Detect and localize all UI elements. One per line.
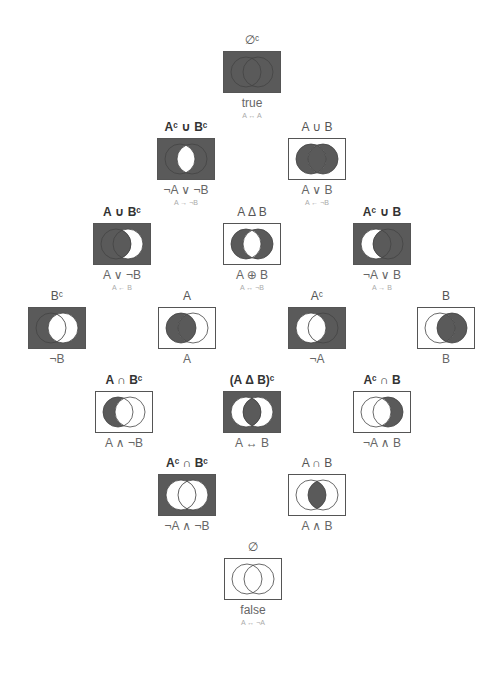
venn-node-or: A ∪ B A ∨ B A ← ¬B bbox=[252, 120, 382, 208]
logic-notation-label: A ⊕ B bbox=[187, 268, 317, 283]
logic-notation-label: A ∨ B bbox=[252, 183, 382, 198]
venn-diagram-icon bbox=[224, 558, 282, 600]
set-notation-label: A ∪ B bbox=[252, 120, 382, 135]
logic-notation-label: ¬B bbox=[0, 352, 122, 367]
set-notation-label: A ∪ Bᶜ bbox=[57, 205, 187, 220]
venn-diagram-icon bbox=[158, 307, 216, 349]
logic-notation-label: A ∧ ¬B bbox=[59, 436, 189, 451]
venn-node-a-or-not-b: A ∪ Bᶜ A ∨ ¬B A ← B bbox=[57, 205, 187, 293]
set-notation-label: Aᶜ ∩ Bᶜ bbox=[122, 456, 252, 471]
venn-node-b: B B bbox=[381, 289, 504, 377]
set-notation-label: Aᶜ ∪ Bᶜ bbox=[121, 120, 251, 135]
venn-diagram-icon bbox=[223, 223, 281, 265]
logic-notation-label: ¬A ∧ ¬B bbox=[122, 519, 252, 534]
equivalence-label: A ↔ ¬A bbox=[188, 618, 318, 628]
set-notation-label: A ∩ Bᶜ bbox=[59, 373, 189, 388]
venn-diagram-icon bbox=[417, 307, 475, 349]
logic-notation-label: ¬A ∧ B bbox=[317, 436, 447, 451]
set-notation-label: ∅ bbox=[188, 540, 318, 555]
logic-notation-label: A ∨ ¬B bbox=[57, 268, 187, 283]
venn-diagram-icon bbox=[223, 391, 281, 433]
set-notation-label: B bbox=[381, 289, 504, 304]
venn-node-not-b: Bᶜ ¬B bbox=[0, 289, 122, 377]
venn-diagram-icon bbox=[93, 223, 151, 265]
logic-notation-label: ¬A ∨ B bbox=[317, 268, 447, 283]
logic-notation-label: A bbox=[122, 352, 252, 367]
logic-notation-label: ¬A bbox=[252, 352, 382, 367]
venn-node-empty: ∅ false A ↔ ¬A bbox=[188, 540, 318, 628]
set-notation-label: Aᶜ ∪ B bbox=[317, 205, 447, 220]
venn-node-xnor: (A Δ B)ᶜ A ↔ B bbox=[187, 373, 317, 461]
venn-node-nor: Aᶜ ∩ Bᶜ ¬A ∧ ¬B bbox=[122, 456, 252, 544]
set-notation-label: A ∩ B bbox=[252, 456, 382, 471]
logic-notation-label: false bbox=[188, 603, 318, 618]
venn-diagram-icon bbox=[288, 138, 346, 180]
set-notation-label: (A Δ B)ᶜ bbox=[187, 373, 317, 388]
venn-node-xor: A Δ B A ⊕ B A ↔ ¬B bbox=[187, 205, 317, 293]
venn-diagram-icon bbox=[157, 138, 215, 180]
venn-node-a-and-not-b: A ∩ Bᶜ A ∧ ¬B bbox=[59, 373, 189, 461]
logic-notation-label: true bbox=[187, 96, 317, 111]
venn-node-a: A A bbox=[122, 289, 252, 377]
logic-notation-label: A ∧ B bbox=[252, 519, 382, 534]
set-notation-label: ∅ᶜ bbox=[187, 33, 317, 48]
venn-diagram-icon bbox=[95, 391, 153, 433]
venn-diagram-icon bbox=[288, 307, 346, 349]
venn-diagram-icon bbox=[158, 474, 216, 516]
venn-node-not-a-and-b: Aᶜ ∩ B ¬A ∧ B bbox=[317, 373, 447, 461]
venn-node-universe: ∅ᶜ true A ↔ A bbox=[187, 33, 317, 121]
venn-diagram-icon bbox=[288, 474, 346, 516]
set-notation-label: Aᶜ bbox=[252, 289, 382, 304]
venn-node-not-a-or-b: Aᶜ ∪ B ¬A ∨ B A → B bbox=[317, 205, 447, 293]
venn-node-not-a: Aᶜ ¬A bbox=[252, 289, 382, 377]
set-notation-label: Bᶜ bbox=[0, 289, 122, 304]
set-notation-label: A bbox=[122, 289, 252, 304]
venn-diagram-icon bbox=[223, 51, 281, 93]
venn-node-nand: Aᶜ ∪ Bᶜ ¬A ∨ ¬B A → ¬B bbox=[121, 120, 251, 208]
venn-diagram-icon bbox=[353, 391, 411, 433]
venn-diagram-icon bbox=[28, 307, 86, 349]
set-notation-label: A Δ B bbox=[187, 205, 317, 220]
logic-notation-label: B bbox=[381, 352, 504, 367]
set-notation-label: Aᶜ ∩ B bbox=[317, 373, 447, 388]
venn-node-and: A ∩ B A ∧ B bbox=[252, 456, 382, 544]
logic-notation-label: ¬A ∨ ¬B bbox=[121, 183, 251, 198]
logic-notation-label: A ↔ B bbox=[187, 436, 317, 451]
venn-diagram-icon bbox=[353, 223, 411, 265]
